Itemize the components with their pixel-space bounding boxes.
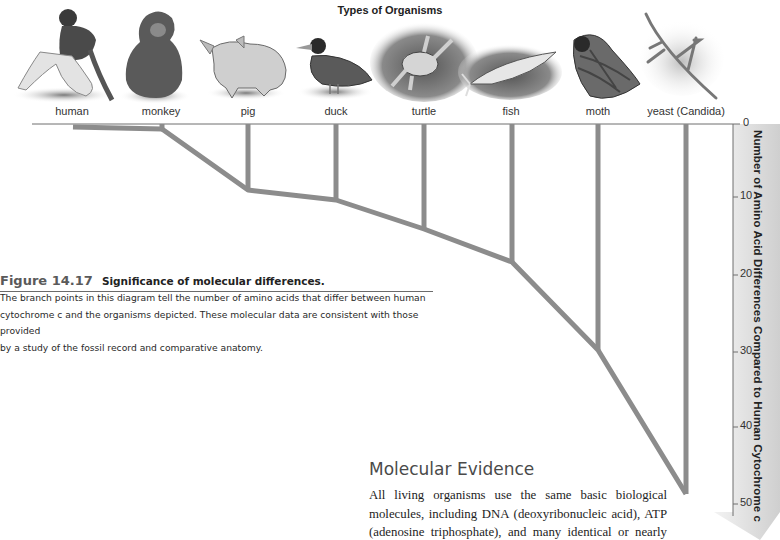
section-body: All living organisms use the same basic … [369, 486, 667, 540]
figure-title: Significance of molecular differences. [102, 275, 325, 287]
body-line: All living organisms use the same basic … [369, 486, 667, 505]
axis-arrow-band [714, 124, 780, 540]
axis-tick-50: 50 [740, 496, 752, 508]
caption-line: The branch points in this diagram tell t… [0, 290, 440, 307]
axis-tick-30: 30 [740, 344, 752, 356]
body-line: molecules, including DNA (deoxyribonucle… [369, 505, 667, 524]
body-line: (adenosine triphosphate), and many ident… [369, 523, 667, 540]
section-heading: Molecular Evidence [369, 459, 534, 479]
axis-tick-20: 20 [740, 267, 752, 279]
axis-title: Number of Amino Acid Differences Compare… [752, 130, 764, 522]
axis-tick-40: 40 [740, 419, 752, 431]
figure-number: Figure 14.17 [0, 273, 93, 288]
caption-line: by a study of the fossil record and comp… [0, 340, 440, 357]
figure-caption: The branch points in this diagram tell t… [0, 290, 440, 356]
axis-tick-0: 0 [743, 116, 749, 128]
branch-human [73, 127, 162, 129]
caption-line: cytochrome c and the organisms depicted.… [0, 307, 440, 340]
axis-tick-10: 10 [740, 189, 752, 201]
figure-heading: Figure 14.17 Significance of molecular d… [0, 270, 433, 292]
